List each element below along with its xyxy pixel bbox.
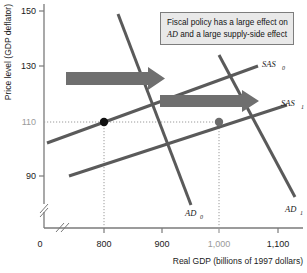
y-axis-title: Price level (GDP deflator) [3,4,13,100]
curve-label-sas0-sub: 0 [282,65,285,71]
ad-shift-arrow-shape [66,67,165,90]
curve-label-ad1-sub: 1 [300,210,303,216]
x-axis-title: Real GDP (billions of 1997 dollars) [173,256,303,266]
callout-line2-pre: effect on [257,18,291,27]
x-tick-label-800: 800 [96,239,111,249]
curve-label-sas1-main: SAS [281,98,295,108]
axis-origin-label: 0 [37,239,42,249]
y-tick-label-130: 130 [21,61,36,71]
initial-equilibrium-point [100,118,108,126]
y-tick-label-110: 110 [22,117,36,127]
curve-label-ad1: AD 1 [284,204,303,216]
new-equilibrium-point [215,118,223,126]
x-tick-label-900: 900 [154,239,169,249]
curve-label-ad0-main: AD [184,208,197,218]
curve-label-ad0-sub: 0 [200,214,203,220]
y-tick-label-90: 90 [26,171,36,181]
ad-shift-arrow [66,67,165,90]
callout-line1: Fiscal policy has a large [167,18,254,27]
aggregate-demand-supply-chart: 150 130 110 90 0 800 900 1,000 1,100 Rea… [0,0,307,273]
curve-sas1 [69,105,287,176]
callout-emphasis-ad: AD [167,30,178,39]
fiscal-policy-callout: Fiscal policy has a large effect on AD a… [160,12,294,45]
curve-label-ad1-main: AD [284,204,297,214]
sas-shift-arrow [160,90,259,112]
curve-ad1 [219,55,295,197]
x-tick-label-1000: 1,000 [208,239,231,249]
callout-line3: supply-side effect [223,30,287,39]
y-axis-break-mark-1 [40,204,48,213]
sas-shift-arrow-shape [160,90,259,112]
curve-label-ad0: AD 0 [184,208,203,220]
curve-label-sas0-main: SAS [262,59,276,69]
curve-label-sas0: SAS 0 [262,59,285,71]
y-tick-label-150: 150 [21,6,36,16]
curve-label-sas1-sub: 1 [301,104,304,110]
x-axis-ticks [104,228,278,233]
fiscal-policy-callout-text: Fiscal policy has a large effect on AD a… [167,17,288,40]
curve-label-sas1: SAS 1 [281,98,304,110]
callout-line2-post: and a large [178,30,221,39]
y-axis-ticks [39,11,44,176]
x-tick-label-1100: 1,100 [267,239,290,249]
